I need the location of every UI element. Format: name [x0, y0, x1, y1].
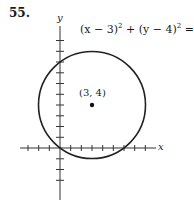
x-axis-label: x: [158, 141, 164, 152]
center-label: (3, 4): [79, 87, 106, 98]
circle-graph: [0, 0, 194, 206]
y-axis-label: y: [57, 12, 63, 23]
center-point: [90, 103, 94, 107]
